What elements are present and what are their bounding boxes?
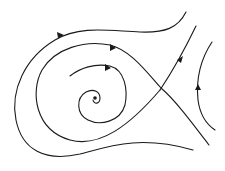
inner-spiral-trajectory (70, 65, 126, 123)
right-arc-trajectory (198, 42, 215, 130)
inner-spiral-arrow-icon (105, 64, 111, 71)
middle-loop-trajectory (36, 44, 209, 145)
phase-portrait-diagram (0, 0, 225, 171)
middle-loop-arrow-icon (110, 44, 116, 51)
unstable-separatrix-trajectory (160, 26, 196, 90)
outer-loop-trajectory (15, 12, 193, 156)
right-arc-arrow-icon (195, 84, 201, 90)
fixed-point-icon (93, 96, 97, 100)
